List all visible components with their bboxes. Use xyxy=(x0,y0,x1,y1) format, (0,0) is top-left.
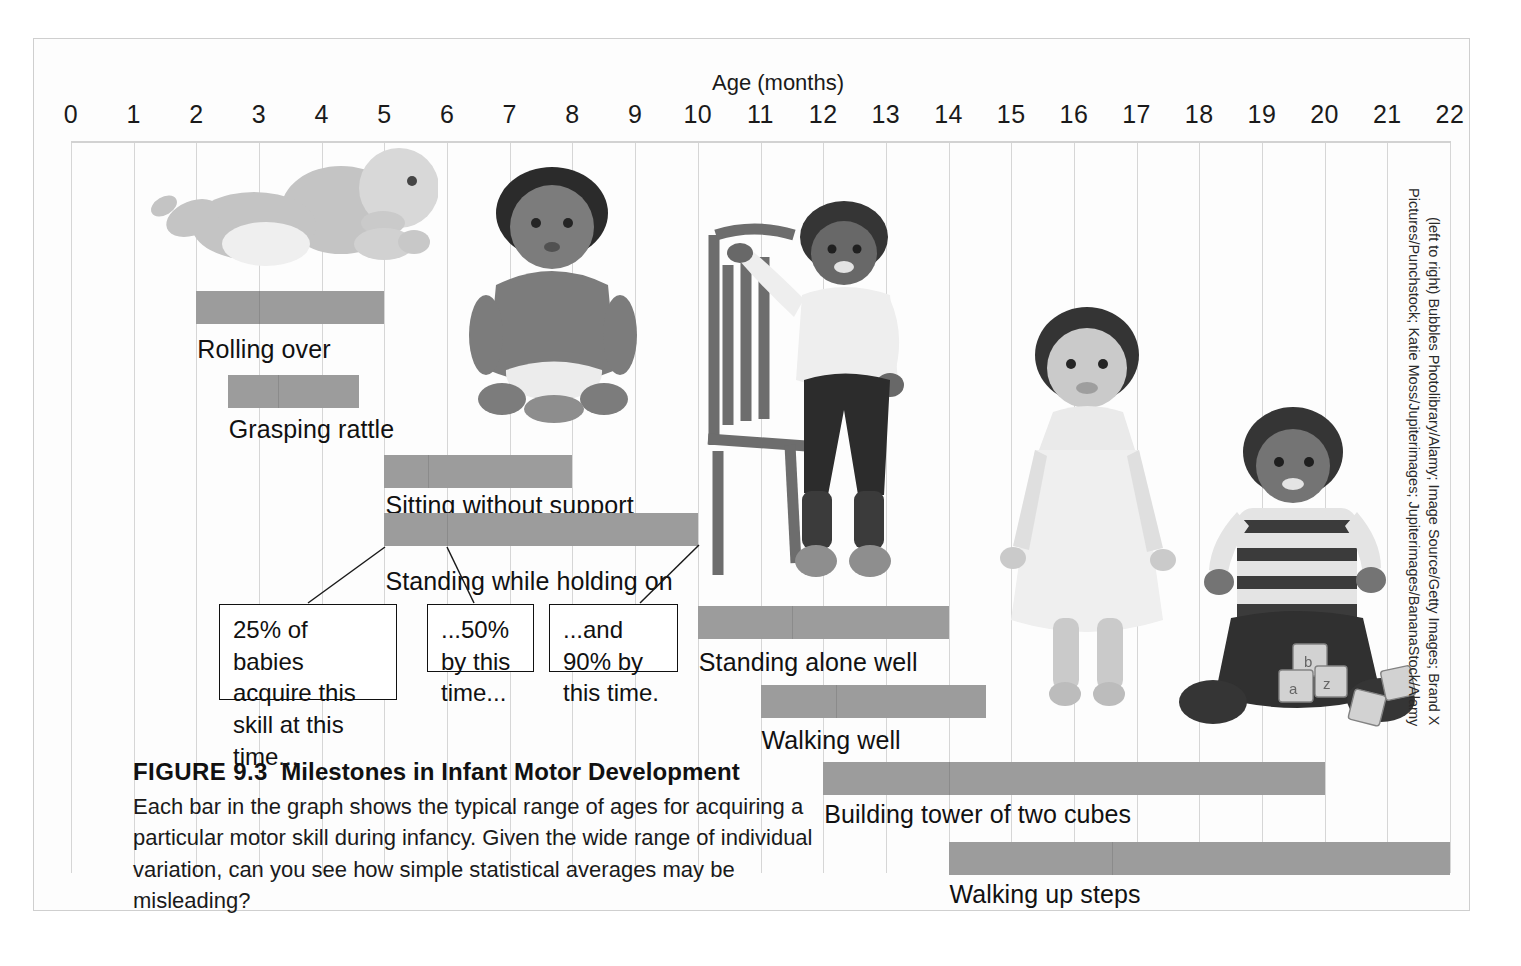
bar-label-walking-up-steps: Walking up steps xyxy=(950,880,1141,909)
gridline-21 xyxy=(1387,143,1388,873)
x-axis-tick-4: 4 xyxy=(315,100,329,129)
figure-caption: FIGURE 9.3 Milestones in Infant Motor De… xyxy=(133,758,823,917)
bar-building-tower-of-two-cubes xyxy=(823,762,1324,795)
x-axis-tick-21: 21 xyxy=(1373,100,1402,129)
bar-label-building-tower-of-two-cubes: Building tower of two cubes xyxy=(824,800,1131,829)
x-axis-tick-18: 18 xyxy=(1185,100,1214,129)
x-axis-tick-13: 13 xyxy=(871,100,900,129)
bar-walking-well xyxy=(761,685,987,718)
x-axis-tick-9: 9 xyxy=(628,100,642,129)
bar-median-tick xyxy=(259,291,260,324)
bar-label-standing-while-holding-on: Standing while holding on xyxy=(385,567,672,596)
bar-standing-alone-well xyxy=(698,606,949,639)
x-axis-tick-17: 17 xyxy=(1122,100,1151,129)
bar-median-tick xyxy=(447,513,448,546)
x-axis-tick-22: 22 xyxy=(1436,100,1465,129)
figure-number: FIGURE 9.3 xyxy=(133,758,268,785)
bar-median-tick xyxy=(1112,842,1113,875)
x-axis-tick-2: 2 xyxy=(189,100,203,129)
bar-label-rolling-over: Rolling over xyxy=(197,335,330,364)
x-axis-tick-1: 1 xyxy=(126,100,140,129)
x-axis-tick-16: 16 xyxy=(1060,100,1089,129)
figure-page: Age (months) 012345678910111213141516171… xyxy=(0,0,1521,966)
callout-50-percent-text: ...50% by this time... xyxy=(441,616,510,706)
bar-rolling-over xyxy=(196,291,384,324)
bar-label-walking-well: Walking well xyxy=(762,726,901,755)
photo-credit: (left to right) Bubbles Photolibrary/Ala… xyxy=(1399,146,1443,726)
x-axis-tick-5: 5 xyxy=(377,100,391,129)
bar-sitting-without-support xyxy=(384,455,572,488)
callout-50-percent: ...50% by this time... xyxy=(427,604,534,672)
x-axis-tick-6: 6 xyxy=(440,100,454,129)
callout-25-percent: 25% of babies acquire this skill at this… xyxy=(219,604,397,700)
bar-grasping-rattle xyxy=(228,375,360,408)
bar-median-tick xyxy=(836,685,837,718)
x-axis-tick-14: 14 xyxy=(934,100,963,129)
callout-90-percent: ...and 90% by this time. xyxy=(549,604,678,672)
x-axis-tick-20: 20 xyxy=(1310,100,1339,129)
x-axis-tick-11: 11 xyxy=(747,100,774,129)
gridline-22 xyxy=(1450,143,1451,873)
callout-90-percent-text: ...and 90% by this time. xyxy=(563,616,659,706)
figure-caption-title: FIGURE 9.3 Milestones in Infant Motor De… xyxy=(133,758,823,786)
figure-caption-body: Each bar in the graph shows the typical … xyxy=(133,791,823,917)
bar-walking-up-steps xyxy=(949,842,1450,875)
x-axis-tick-10: 10 xyxy=(683,100,712,129)
figure-title: Milestones in Infant Motor Development xyxy=(281,758,740,785)
x-axis-tick-19: 19 xyxy=(1248,100,1277,129)
bar-median-tick xyxy=(428,455,429,488)
bar-median-tick xyxy=(949,762,950,795)
bar-label-grasping-rattle: Grasping rattle xyxy=(229,415,394,444)
x-axis-tick-7: 7 xyxy=(503,100,517,129)
gridline-20 xyxy=(1325,143,1326,873)
bar-median-tick xyxy=(792,606,793,639)
x-axis-tick-8: 8 xyxy=(565,100,579,129)
x-axis-tick-0: 0 xyxy=(64,100,78,129)
x-axis-tick-12: 12 xyxy=(809,100,838,129)
bar-median-tick xyxy=(278,375,279,408)
gridline-0 xyxy=(71,143,72,873)
bar-label-standing-alone-well: Standing alone well xyxy=(699,648,918,677)
x-axis-tick-3: 3 xyxy=(252,100,266,129)
x-axis-tick-15: 15 xyxy=(997,100,1026,129)
bar-standing-while-holding-on xyxy=(384,513,697,546)
x-axis-title: Age (months) xyxy=(712,70,844,96)
